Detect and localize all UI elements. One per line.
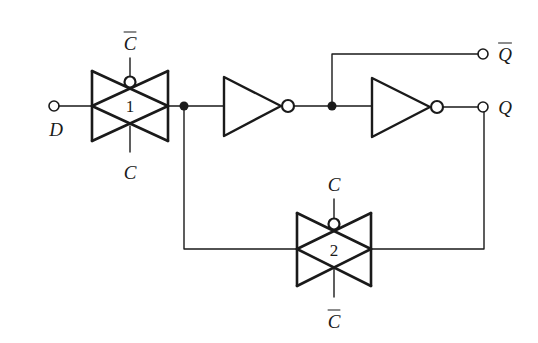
circuit-canvas: [0, 0, 538, 343]
q-bar-wire: [332, 54, 478, 106]
tg1-inversion-bubble: [125, 77, 136, 88]
tg2-top-control-label: C: [328, 175, 341, 194]
tg1-bottom-control-label: C: [124, 163, 137, 182]
inverter-1-bubble: [282, 100, 294, 112]
inverter-2: [372, 78, 430, 137]
feedback-wire-right: [371, 112, 484, 249]
d-input-label: D: [49, 120, 63, 139]
tg1-top-control-label: C: [124, 34, 137, 53]
q-bar-terminal: [478, 49, 488, 59]
d-terminal: [49, 101, 59, 111]
inverter-2-bubble: [431, 101, 443, 113]
q-bar-output-label: Q: [498, 45, 512, 64]
tg1-number-label: 1: [126, 98, 135, 115]
q-terminal: [478, 102, 488, 112]
tg2-number-label: 2: [330, 242, 339, 259]
tg2-inversion-bubble: [329, 219, 340, 230]
inverter-1: [224, 77, 281, 136]
q-output-label: Q: [498, 98, 512, 117]
tg2-bottom-control-label: C: [328, 312, 341, 331]
